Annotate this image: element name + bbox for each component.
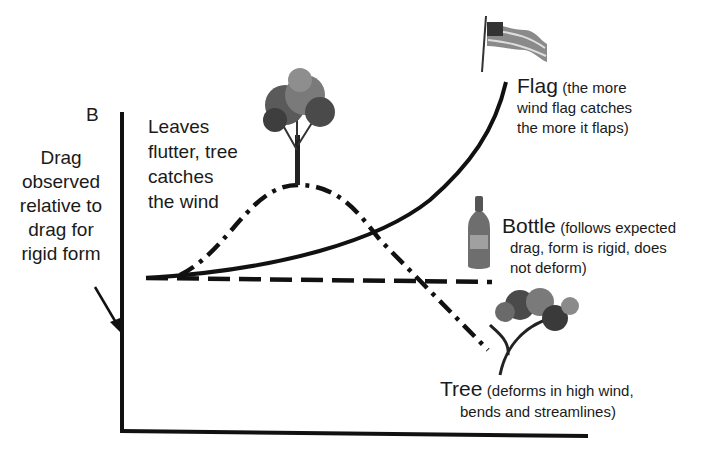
bottle-curve xyxy=(146,278,492,282)
flag-icon xyxy=(482,16,547,72)
tree-curve xyxy=(180,185,488,350)
arrow-icon xyxy=(95,287,121,333)
upright-tree-icon xyxy=(263,68,335,185)
bent-tree-icon xyxy=(490,288,579,375)
bottle-icon xyxy=(468,196,490,269)
diagram-canvas xyxy=(0,0,713,464)
